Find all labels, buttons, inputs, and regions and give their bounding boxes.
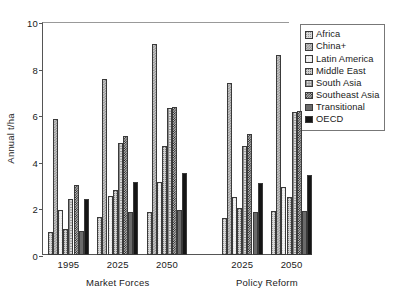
bar-africa-market-forces-1995 (48, 232, 53, 255)
bar-middle-east-market-forces-1995 (63, 229, 68, 255)
legend-label: Latin America (316, 55, 374, 64)
legend-label: China+ (316, 42, 346, 51)
swatch-southeast-asia-icon (305, 92, 313, 100)
scenario-label: Policy Reform (236, 277, 298, 288)
swatch-latin-america-icon (305, 55, 313, 63)
scenario-label: Market Forces (86, 277, 149, 288)
bar-south-asia-market-forces-2025 (118, 143, 123, 255)
bar-latin-america-market-forces-2050 (157, 182, 162, 255)
legend-item-south-asia[interactable]: South Asia (305, 77, 379, 89)
bar-africa-policy-reform-2025 (222, 218, 227, 255)
legend-item-latin-america[interactable]: Latin America (305, 53, 379, 65)
bar-southeast-asia-policy-reform-2025 (247, 134, 252, 255)
swatch-china-plus-icon (305, 43, 313, 51)
bar-south-asia-market-forces-2050 (167, 108, 172, 255)
bar-oecd-policy-reform-2050 (307, 175, 312, 255)
bar-southeast-asia-market-forces-1995 (74, 185, 79, 255)
legend-label: OECD (316, 115, 343, 124)
y-axis-tick-mark (39, 256, 43, 257)
bar-middle-east-market-forces-2025 (113, 190, 118, 255)
bars-layer (42, 22, 289, 255)
bar-china--market-forces-2025 (102, 79, 107, 255)
swatch-south-asia-icon (305, 80, 313, 88)
legend-label: Southeast Asia (316, 91, 379, 100)
bar-transitional-market-forces-1995 (79, 231, 84, 255)
x-axis-tick-label: 2025 (231, 259, 253, 270)
bar-middle-east-policy-reform-2050 (287, 197, 292, 255)
legend-item-oecd[interactable]: OECD (305, 114, 379, 126)
bar-china--policy-reform-2025 (227, 83, 232, 255)
bar-southeast-asia-market-forces-2025 (123, 136, 128, 255)
legend-label: Africa (316, 30, 340, 39)
bar-oecd-market-forces-1995 (84, 199, 89, 255)
legend-item-middle-east[interactable]: Middle East (305, 65, 379, 77)
bar-china--market-forces-2050 (152, 44, 157, 255)
bar-china--market-forces-1995 (53, 119, 58, 255)
bar-southeast-asia-policy-reform-2050 (297, 111, 302, 255)
bar-middle-east-policy-reform-2025 (237, 208, 242, 255)
chart-legend: AfricaChina+Latin AmericaMiddle EastSout… (300, 24, 385, 131)
legend-item-africa[interactable]: Africa (305, 29, 379, 41)
legend-label: Transitional (316, 103, 365, 112)
x-axis-tick-label: 2050 (281, 259, 303, 270)
y-axis-title: Annual t/ha (5, 22, 17, 255)
swatch-middle-east-icon (305, 68, 313, 76)
bar-south-asia-market-forces-1995 (68, 199, 73, 255)
bar-oecd-market-forces-2050 (182, 173, 187, 255)
bar-africa-market-forces-2050 (147, 212, 152, 255)
bar-china--policy-reform-2050 (276, 55, 281, 255)
bar-oecd-market-forces-2025 (133, 182, 138, 255)
x-axis-tick-label: 2050 (156, 259, 178, 270)
bar-transitional-policy-reform-2050 (302, 211, 307, 255)
bar-latin-america-market-forces-1995 (58, 210, 63, 255)
legend-item-southeast-asia[interactable]: Southeast Asia (305, 89, 379, 101)
bar-transitional-policy-reform-2025 (253, 212, 258, 255)
bar-africa-policy-reform-2050 (271, 211, 276, 255)
bar-oecd-policy-reform-2025 (258, 183, 263, 255)
bar-latin-america-policy-reform-2050 (281, 187, 286, 255)
bar-south-asia-policy-reform-2025 (242, 146, 247, 256)
bar-africa-market-forces-2025 (97, 217, 102, 255)
x-axis-tick-label: 2025 (107, 259, 129, 270)
chart-figure: Annual t/ha 0246810 AfricaChina+Latin Am… (0, 0, 402, 305)
legend-label: South Asia (316, 79, 361, 88)
bar-transitional-market-forces-2025 (128, 212, 133, 255)
bar-middle-east-market-forces-2050 (162, 146, 167, 256)
x-axis-tick-label: 1995 (57, 259, 79, 270)
bar-southeast-asia-market-forces-2050 (172, 107, 177, 255)
swatch-transitional-icon (305, 104, 313, 112)
legend-label: Middle East (316, 67, 366, 76)
legend-item-transitional[interactable]: Transitional (305, 102, 379, 114)
swatch-africa-icon (305, 31, 313, 39)
legend-item-china-[interactable]: China+ (305, 41, 379, 53)
bar-latin-america-policy-reform-2025 (232, 197, 237, 255)
bar-transitional-market-forces-2050 (177, 210, 182, 255)
swatch-oecd-icon (305, 116, 313, 124)
bar-latin-america-market-forces-2025 (108, 196, 113, 255)
bar-south-asia-policy-reform-2050 (292, 112, 297, 255)
